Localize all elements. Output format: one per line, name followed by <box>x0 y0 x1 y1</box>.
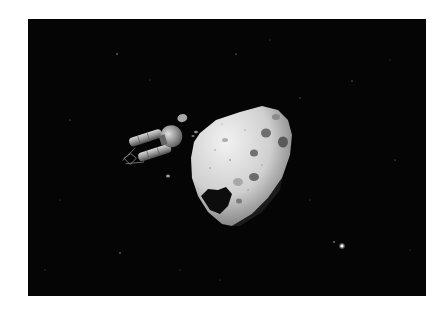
scene-artwork <box>28 19 426 296</box>
asteroid <box>191 106 292 226</box>
space-scene <box>28 19 426 296</box>
debris <box>194 131 198 134</box>
bright-star <box>341 245 344 248</box>
debris <box>166 175 170 178</box>
debris <box>192 135 195 137</box>
spacecraft <box>114 113 196 169</box>
